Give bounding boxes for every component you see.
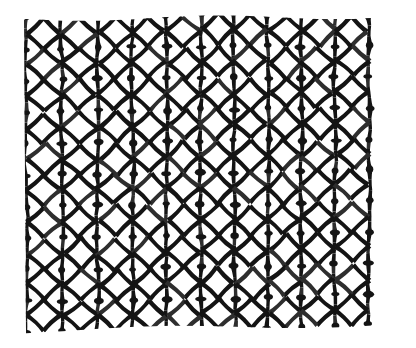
mesh-node [294, 44, 305, 50]
mesh-node [229, 107, 240, 112]
mesh-node [92, 75, 103, 81]
mesh-node [264, 169, 273, 173]
mesh-node [92, 234, 101, 240]
mesh-node [366, 197, 374, 203]
mesh-node [197, 264, 206, 269]
mesh-node [363, 260, 374, 265]
mesh-node [265, 201, 271, 207]
mesh-node [264, 42, 272, 47]
mesh-node [195, 169, 206, 176]
mesh-node [130, 298, 139, 303]
mesh-node [330, 230, 340, 236]
mesh-node [295, 168, 305, 174]
mesh-node [195, 139, 203, 144]
mesh-node [58, 267, 65, 273]
mesh-node [230, 42, 237, 48]
mesh-node [298, 106, 306, 112]
mesh-node [129, 140, 137, 147]
mesh-node [332, 168, 339, 174]
mesh-node [95, 44, 101, 50]
mesh-node [363, 291, 374, 298]
mesh-node [128, 202, 136, 209]
mesh-node [92, 172, 101, 178]
mesh-node [57, 109, 65, 114]
mesh-node [298, 138, 308, 145]
mesh-node [265, 105, 271, 110]
mesh-node [329, 261, 338, 267]
mesh-node [366, 106, 375, 111]
mesh-node [297, 264, 306, 269]
mesh-node [264, 294, 273, 300]
mesh-node [231, 296, 241, 303]
mesh-node [297, 231, 305, 236]
mesh-node [127, 109, 136, 114]
mesh-node [94, 139, 104, 145]
mesh-node [59, 234, 67, 239]
mesh-node [60, 77, 68, 82]
mesh-node [92, 202, 103, 208]
figure-root: Close-up photograph of a black expanded … [0, 0, 416, 348]
mesh-node [163, 108, 172, 114]
mesh-node [162, 138, 173, 144]
mesh-node [196, 45, 206, 49]
mesh-node [163, 233, 170, 238]
mesh-node [162, 75, 170, 80]
mesh-node [296, 75, 306, 82]
mesh-node [129, 171, 138, 177]
mesh-node [197, 76, 207, 80]
mesh-node [228, 170, 239, 176]
mesh-node [328, 74, 338, 79]
mesh-node [195, 201, 205, 208]
mesh-node [162, 44, 173, 49]
mesh-node [127, 44, 137, 48]
mesh-node [58, 171, 67, 177]
mesh-node [59, 203, 66, 208]
mesh-node [94, 108, 103, 112]
mesh-node [56, 141, 67, 146]
mesh-node [161, 171, 171, 176]
mesh-node [230, 202, 241, 208]
mesh-node [331, 292, 339, 296]
mesh-node [365, 137, 372, 143]
mesh-node [331, 44, 340, 49]
mesh-node [129, 268, 136, 272]
mesh-node [296, 200, 307, 206]
mesh-node [331, 198, 338, 204]
mesh-node [365, 229, 374, 235]
mesh-node [57, 47, 64, 52]
mesh-node [57, 299, 68, 304]
mesh-node [160, 264, 171, 270]
mesh-node [163, 201, 170, 205]
mesh-node [363, 74, 372, 78]
mesh-node [230, 73, 238, 80]
mesh-node [230, 232, 239, 239]
mesh-node [229, 263, 239, 269]
mesh-node [94, 267, 103, 272]
mesh-node [196, 234, 207, 239]
mesh-node [264, 231, 272, 236]
mesh-node [264, 264, 272, 270]
mesh-node [264, 76, 273, 81]
mesh-node [94, 298, 104, 305]
mesh-node [197, 105, 204, 111]
mesh-node [296, 295, 306, 301]
mesh-node [162, 296, 173, 303]
mesh-node [366, 42, 373, 49]
mesh-node [129, 235, 137, 239]
mesh-node [331, 138, 342, 142]
mesh-node [127, 74, 135, 81]
mesh-image: Close-up photograph of a black expanded … [0, 0, 416, 348]
mesh-node [230, 137, 237, 142]
mesh-node [266, 136, 273, 142]
mesh-node [195, 297, 206, 302]
mesh-node [329, 105, 340, 110]
mesh-node [366, 166, 373, 173]
